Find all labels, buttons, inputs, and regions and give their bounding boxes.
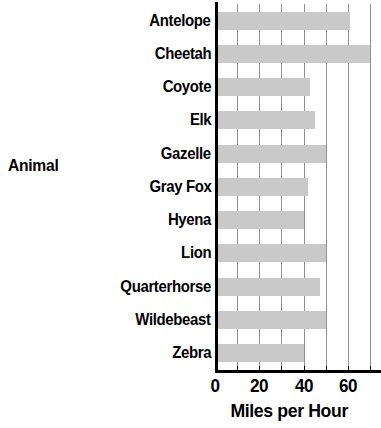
x-axis-title: Miles per Hour [198, 400, 381, 422]
category-label: Elk [0, 104, 215, 137]
x-axis-tick-label: 60 [339, 375, 357, 397]
category-label-text: Coyote [162, 77, 211, 97]
x-axis-tick [348, 366, 349, 371]
category-label: Gray Fox [0, 170, 215, 203]
bar-row [215, 303, 381, 336]
x-axis-tick [237, 366, 238, 371]
x-axis-tick [215, 366, 216, 371]
category-label-column: AntelopeCheetahCoyoteElkGazelleGray FoxH… [0, 4, 215, 370]
category-label-text: Zebra [172, 343, 211, 363]
category-label: Gazelle [0, 137, 215, 170]
bar-series [215, 4, 381, 370]
bar [215, 311, 326, 329]
category-label-text: Gray Fox [149, 177, 211, 197]
category-label: Cheetah [0, 37, 215, 70]
category-label: Coyote [0, 71, 215, 104]
bar-row [215, 204, 381, 237]
category-label-text: Elk [190, 110, 211, 130]
bar-row [215, 104, 381, 137]
bar [215, 111, 315, 129]
bar-chart: Animal AntelopeCheetahCoyoteElkGazelleGr… [0, 0, 381, 428]
category-label: Lion [0, 237, 215, 270]
bar [215, 244, 326, 262]
x-axis-tick-label: 20 [250, 375, 268, 397]
x-axis-tick [259, 366, 260, 371]
bar [215, 12, 350, 30]
category-label-text: Cheetah [154, 44, 211, 64]
bar-row [215, 237, 381, 270]
bar-row [215, 337, 381, 370]
category-label: Quarterhorse [0, 270, 215, 303]
category-label: Hyena [0, 204, 215, 237]
bar-row [215, 4, 381, 37]
bar [215, 344, 304, 362]
category-label: Antelope [0, 4, 215, 37]
bar-row [215, 170, 381, 203]
category-label: Wildebeast [0, 303, 215, 336]
category-label-text: Hyena [168, 210, 211, 230]
category-label-text: Gazelle [161, 144, 211, 164]
y-axis-line [215, 2, 218, 372]
x-axis-tick-label: 0 [210, 375, 219, 397]
x-axis-tick-labels: 0204060 [215, 375, 381, 399]
bar [215, 178, 308, 196]
x-axis-tick [304, 366, 305, 371]
x-axis-title-text: Miles per Hour [231, 400, 349, 422]
bar-row [215, 37, 381, 70]
bar-row [215, 270, 381, 303]
bar-row [215, 137, 381, 170]
bar [215, 278, 320, 296]
bar-row [215, 71, 381, 104]
category-label-text: Quarterhorse [120, 277, 211, 297]
bar [215, 211, 304, 229]
x-axis-tick [326, 366, 327, 371]
category-label-text: Antelope [150, 11, 211, 31]
category-label: Zebra [0, 337, 215, 370]
x-axis-tick [370, 366, 371, 371]
x-axis-tick-label: 40 [294, 375, 312, 397]
category-label-text: Wildebeast [136, 310, 211, 330]
x-axis-ticks [215, 366, 381, 371]
bar [215, 45, 370, 63]
plot-area [215, 4, 381, 370]
category-label-text: Lion [181, 243, 211, 263]
x-axis-tick [281, 366, 282, 371]
bar [215, 78, 310, 96]
bar [215, 145, 326, 163]
